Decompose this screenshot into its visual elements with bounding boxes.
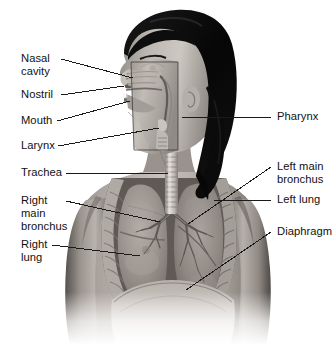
label-pharynx: Pharynx — [277, 110, 318, 123]
label-diaphragm: Diaphragm — [277, 225, 332, 238]
label-right-main-bronchus: Right main bronchus — [21, 194, 67, 234]
ear — [182, 86, 200, 112]
sagittal-cutaway — [124, 59, 178, 154]
label-mouth: Mouth — [21, 114, 52, 127]
respiratory-system-figure: Nasal cavity Nostril Mouth Larynx Trache… — [0, 0, 336, 345]
label-left-main-bronchus: Left main bronchus — [277, 160, 323, 186]
label-nasal-cavity: Nasal cavity — [21, 52, 50, 78]
trachea — [165, 152, 178, 214]
label-right-lung: Right lung — [21, 238, 47, 264]
label-larynx: Larynx — [21, 139, 55, 152]
label-nostril: Nostril — [21, 88, 53, 101]
label-trachea: Trachea — [21, 166, 62, 179]
label-left-lung: Left lung — [277, 193, 320, 206]
